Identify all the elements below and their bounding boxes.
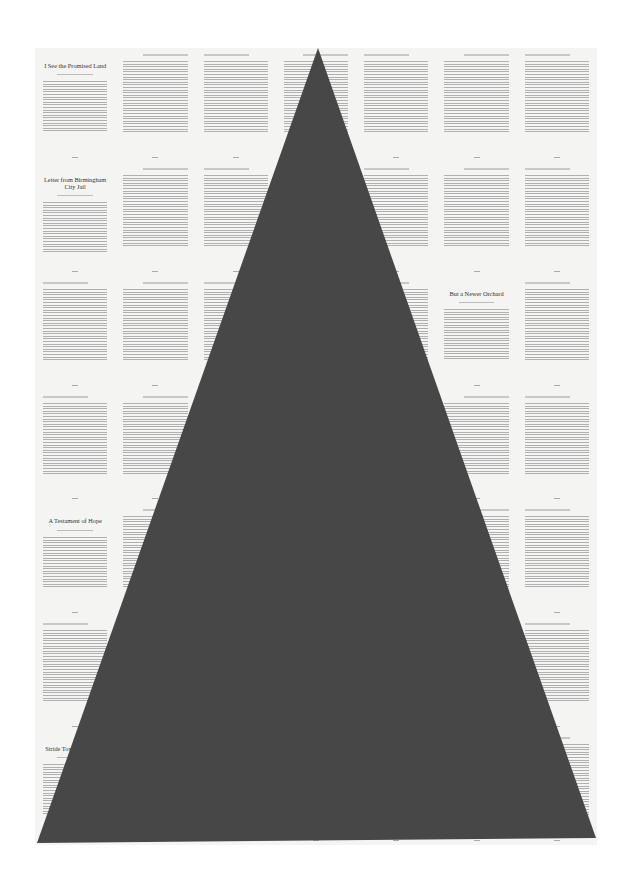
page-folio <box>152 385 158 386</box>
page-folio <box>313 385 319 386</box>
page-folio <box>393 498 399 499</box>
running-header <box>525 623 570 625</box>
page-folio <box>474 612 480 613</box>
book-page: I See the Promised Land <box>35 48 115 162</box>
body-text-block <box>43 537 107 587</box>
running-header <box>143 54 188 56</box>
book-page <box>196 162 276 276</box>
page-folio <box>233 840 239 841</box>
running-header <box>303 168 348 170</box>
book-page <box>276 617 356 731</box>
page-folio <box>313 726 319 727</box>
body-text-block <box>525 744 589 816</box>
running-header <box>303 623 348 625</box>
chapter-title: A Testament of Hope <box>43 517 107 524</box>
body-text-block <box>364 403 428 475</box>
body-text-block <box>43 202 107 252</box>
body-text-block <box>525 516 589 588</box>
page-folio <box>393 385 399 386</box>
page-folio <box>554 726 560 727</box>
body-text-block <box>43 764 107 814</box>
book-page <box>517 503 597 617</box>
chapter-subtitle-rule <box>57 195 92 196</box>
body-text-block <box>444 403 508 475</box>
body-text-block <box>123 744 187 816</box>
running-header <box>364 54 409 56</box>
running-header <box>204 396 249 398</box>
running-header <box>303 737 348 739</box>
body-text-block <box>123 630 187 702</box>
body-text-block <box>123 516 187 588</box>
page-folio <box>474 157 480 158</box>
chapter-subtitle-rule <box>459 302 494 303</box>
book-page: Letter from Birmingham City Jail <box>35 162 115 276</box>
book-page <box>356 276 436 390</box>
book-page <box>356 162 436 276</box>
page-folio <box>233 157 239 158</box>
running-header <box>143 623 188 625</box>
body-text-block <box>43 630 107 702</box>
book-page <box>115 48 195 162</box>
running-header <box>143 509 188 511</box>
page-folio <box>313 157 319 158</box>
body-text-block <box>525 403 589 475</box>
book-page <box>517 276 597 390</box>
book-page <box>115 276 195 390</box>
running-header <box>464 737 509 739</box>
book-page <box>196 617 276 731</box>
page-folio <box>554 271 560 272</box>
running-header <box>364 509 409 511</box>
running-header <box>525 282 570 284</box>
book-page <box>115 731 195 845</box>
book-page <box>115 503 195 617</box>
book-page <box>436 390 516 504</box>
page-folio <box>313 612 319 613</box>
body-text-block <box>364 61 428 133</box>
running-header <box>525 737 570 739</box>
body-text-block <box>444 630 508 702</box>
body-text-block <box>204 175 268 247</box>
page-folio <box>233 385 239 386</box>
chapter-title: I See the Promised Land <box>43 62 107 69</box>
body-text-block <box>204 403 268 475</box>
body-text-block <box>284 61 348 133</box>
running-header <box>204 168 249 170</box>
body-text-block <box>284 289 348 361</box>
page-folio <box>72 612 78 613</box>
book-page <box>356 731 436 845</box>
book-page <box>356 617 436 731</box>
page-folio <box>152 612 158 613</box>
page-folio <box>72 385 78 386</box>
body-text-block <box>284 516 348 588</box>
running-header <box>204 623 249 625</box>
chapter-subtitle-rule <box>57 757 92 758</box>
book-page <box>436 162 516 276</box>
page-folio <box>554 840 560 841</box>
book-page <box>517 617 597 731</box>
page-folio <box>152 498 158 499</box>
book-page <box>196 503 276 617</box>
book-page <box>196 276 276 390</box>
running-header <box>303 509 348 511</box>
page-folio <box>554 385 560 386</box>
page-folio <box>554 498 560 499</box>
running-header <box>204 509 249 511</box>
book-page <box>196 48 276 162</box>
running-header <box>43 396 88 398</box>
body-text-block <box>364 744 428 816</box>
book-page <box>115 617 195 731</box>
running-header <box>364 282 409 284</box>
book-page: Stride Toward Freedom <box>35 731 115 845</box>
page-grid: I See the Promised LandLetter from Birmi… <box>35 48 597 845</box>
page-folio <box>313 271 319 272</box>
book-page <box>276 276 356 390</box>
body-text-block <box>444 309 508 359</box>
chapter-title: Stride Toward Freedom <box>43 745 107 752</box>
body-text-block <box>123 403 187 475</box>
body-text-block <box>364 630 428 702</box>
book-page <box>35 617 115 731</box>
running-header <box>525 168 570 170</box>
page-folio <box>72 498 78 499</box>
body-text-block <box>444 175 508 247</box>
book-page <box>276 390 356 504</box>
